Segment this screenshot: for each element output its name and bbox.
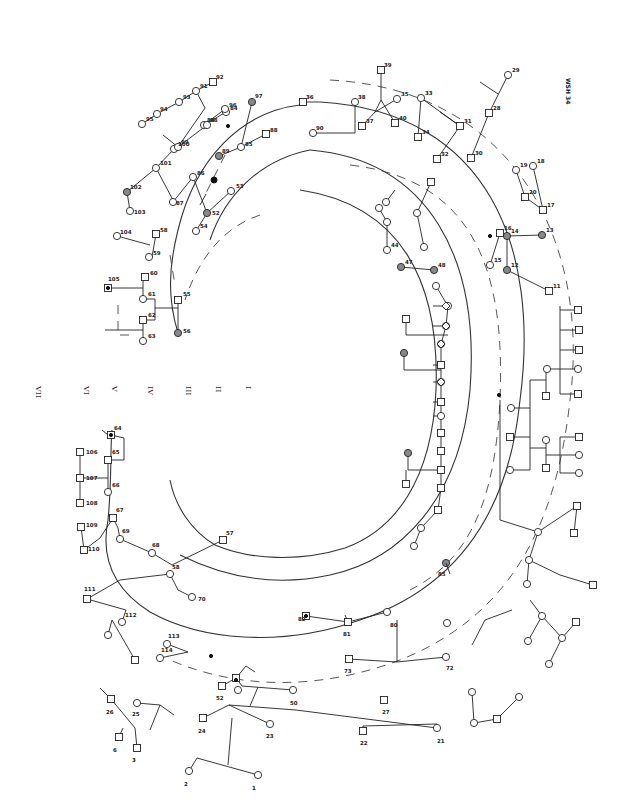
deceased-dot <box>488 234 491 237</box>
individual-id-label: 11 <box>553 283 561 289</box>
female-circle-icon <box>192 87 199 94</box>
individual-id-label: 89 <box>222 148 230 154</box>
individual-id-label: 61 <box>148 291 156 297</box>
female-circle-icon <box>118 618 125 625</box>
individual-id-label: 23 <box>266 733 274 739</box>
individual-id-label: 27 <box>382 709 390 715</box>
individual-id-label: 110 <box>88 546 100 552</box>
male-square-icon <box>573 619 580 626</box>
individual-id-label: 35 <box>401 91 409 97</box>
individual-id-label: 98 <box>210 117 218 123</box>
male-square-icon <box>140 317 147 324</box>
female-circle-icon <box>529 162 536 169</box>
male-square-icon <box>153 231 160 238</box>
individual-id-label: 36 <box>306 94 314 100</box>
male-square-icon <box>438 362 445 369</box>
male-square-icon <box>494 716 501 723</box>
deceased-dot <box>109 433 112 436</box>
individual-id-label: 12 <box>511 262 519 268</box>
female-circle-icon <box>126 207 133 214</box>
individual-id-label: 3 <box>132 757 136 763</box>
affected-individual-icon <box>400 349 407 356</box>
female-circle-icon <box>175 98 182 105</box>
female-circle-icon <box>534 528 541 535</box>
male-square-icon <box>81 547 88 554</box>
female-circle-icon <box>413 209 420 216</box>
female-circle-icon <box>545 660 552 667</box>
individual-id-label: 96 <box>229 102 237 108</box>
individual-id-label: 31 <box>464 118 472 124</box>
male-square-icon <box>134 745 141 752</box>
male-square-icon <box>571 530 578 537</box>
individual-id-label: 85 <box>245 141 253 147</box>
individual-id-label: 39 <box>384 62 392 68</box>
affected-individual-icon <box>174 329 181 336</box>
individual-id-label: 21 <box>437 738 445 744</box>
male-square-icon <box>263 131 270 138</box>
individual-id-label: 114 <box>161 647 173 653</box>
pedigree-chart: WSH 34 VIIVIVIVIIIIII <box>0 0 632 802</box>
female-circle-icon <box>525 556 532 563</box>
individual-id-label: 107 <box>86 475 98 481</box>
female-circle-icon <box>486 261 493 268</box>
female-circle-icon <box>506 466 513 473</box>
individual-id-label: 85 <box>438 571 446 577</box>
male-square-icon <box>428 179 435 186</box>
male-square-icon <box>403 316 410 323</box>
individual-id-label: 47 <box>405 259 413 265</box>
female-circle-icon <box>417 94 424 101</box>
individual-id-label: 50 <box>290 700 298 706</box>
male-square-icon <box>468 155 475 162</box>
male-square-icon <box>381 697 388 704</box>
female-circle-icon <box>289 686 296 693</box>
male-square-icon <box>575 391 582 398</box>
male-square-icon <box>392 120 399 127</box>
male-square-icon <box>575 307 582 314</box>
male-square-icon <box>345 619 352 626</box>
svg-text:WSH 34: WSH 34 <box>565 78 572 104</box>
female-circle-icon <box>188 593 195 600</box>
female-circle-icon <box>185 767 192 774</box>
male-square-icon <box>522 194 529 201</box>
individual-id-label: 72 <box>446 665 454 671</box>
male-square-icon <box>507 434 514 441</box>
male-square-icon <box>438 399 445 406</box>
male-square-icon <box>175 297 182 304</box>
female-circle-icon <box>266 720 273 727</box>
individual-id-label: 92 <box>216 74 224 80</box>
male-square-icon <box>574 503 581 510</box>
individual-id-label: 101 <box>160 160 172 166</box>
female-circle-icon <box>221 105 228 112</box>
individual-id-label: 60 <box>150 270 158 276</box>
male-square-icon <box>540 207 547 214</box>
affected-individual-icon <box>404 449 411 456</box>
female-circle-icon <box>524 637 531 644</box>
male-square-icon <box>78 524 85 531</box>
male-square-icon <box>105 457 112 464</box>
individual-id-label: 22 <box>360 740 368 746</box>
male-square-icon <box>576 327 583 334</box>
male-square-icon <box>77 475 84 482</box>
proband-marker <box>211 177 217 183</box>
figure-code-label: WSH 34 <box>565 78 572 104</box>
male-square-icon <box>132 657 139 664</box>
female-circle-icon <box>417 524 424 531</box>
female-circle-icon <box>383 218 390 225</box>
female-circle-icon <box>145 253 152 260</box>
individual-id-label: 59 <box>153 250 161 256</box>
female-circle-icon <box>420 243 427 250</box>
male-square-icon <box>576 434 583 441</box>
individual-id-label: 25 <box>132 711 140 717</box>
male-square-icon <box>435 507 442 514</box>
individual-id-label: 57 <box>226 530 234 536</box>
individual-id-label: 20 <box>529 189 537 195</box>
generation-label: III <box>184 386 193 395</box>
male-square-icon <box>108 696 115 703</box>
individual-id-label: 90 <box>316 125 324 131</box>
female-circle-icon <box>507 404 514 411</box>
generation-label: I <box>244 386 253 389</box>
individual-id-label: 17 <box>547 202 555 208</box>
individual-id-label: 53 <box>236 183 244 189</box>
individual-id-label: 68 <box>152 542 160 548</box>
male-square-icon <box>438 467 445 474</box>
